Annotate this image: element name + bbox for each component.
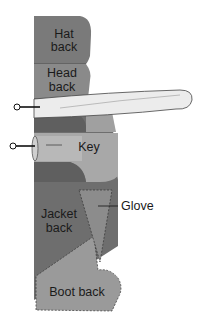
pattern-diagram: Hat back Head back Key Jacket back Glove… [0, 0, 202, 335]
key-label: Key [78, 140, 100, 154]
glove-label: Glove [121, 199, 154, 213]
head-back-label: Head [47, 66, 77, 80]
key-pin-icon [10, 143, 35, 149]
jacket-back-label-2: back [46, 221, 73, 235]
boot-back-label: Boot back [49, 285, 105, 299]
hat-back-label-2: back [51, 40, 78, 54]
jacket-back-label: Jacket [41, 207, 78, 221]
head-back-label-2: back [49, 80, 76, 94]
hat-back-label: Hat [54, 27, 74, 41]
